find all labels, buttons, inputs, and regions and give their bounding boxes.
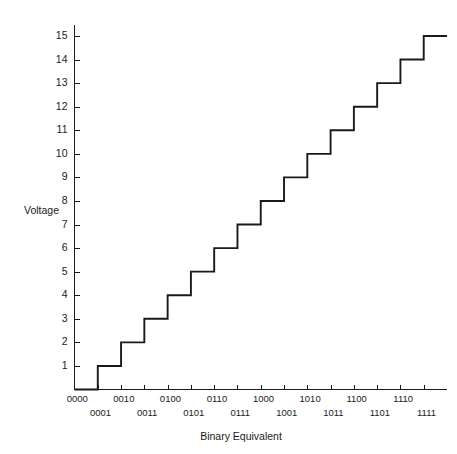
x-tick-label: 1110 — [393, 393, 413, 404]
y-tick-label: 15 — [56, 29, 68, 41]
x-tick-label: 0000 — [67, 393, 88, 404]
y-tick-label: 14 — [56, 53, 68, 65]
y-tick-label: 11 — [57, 123, 68, 135]
y-tick-label: 4 — [62, 288, 68, 300]
y-tick-label: 7 — [62, 218, 68, 230]
x-tick-label: 0110 — [207, 393, 227, 404]
y-tick-label-group: 123456789101112131415 — [56, 29, 68, 371]
y-tick-label: 2 — [62, 335, 68, 347]
y-tick-label: 1 — [62, 359, 68, 371]
x-tick-label: 0111 — [230, 407, 250, 418]
y-tick-label: 9 — [62, 170, 68, 182]
y-axis-title: Voltage — [24, 204, 59, 216]
y-tick-label: 8 — [62, 194, 68, 206]
x-tick-label: 0001 — [90, 407, 111, 418]
x-tick-label: 0010 — [113, 393, 134, 404]
x-tick-label: 1000 — [253, 393, 274, 404]
x-tick-label: 1001 — [276, 407, 297, 418]
y-tick-label: 13 — [56, 76, 68, 88]
y-tick-label: 3 — [62, 312, 68, 324]
chart-container: 123456789101112131415 000000010010001101… — [0, 0, 457, 454]
staircase-chart: 123456789101112131415 000000010010001101… — [0, 0, 457, 454]
x-tick-label: 1101 — [370, 407, 390, 418]
x-tick-label: 1010 — [300, 393, 321, 404]
step-line-group — [75, 36, 448, 390]
y-tick-label: 10 — [56, 147, 68, 159]
y-tick-group — [75, 37, 80, 367]
y-tick-label: 5 — [62, 265, 68, 277]
x-tick-label-group: 0000000100100011010001010110011110001001… — [67, 393, 436, 418]
x-tick-label: 0101 — [183, 407, 204, 418]
x-tick-label: 0011 — [137, 407, 157, 418]
x-tick-group — [99, 385, 425, 390]
x-tick-label: 0100 — [160, 393, 181, 404]
x-tick-label: 1100 — [346, 393, 366, 404]
x-tick-label: 1111 — [417, 407, 436, 418]
dac-staircase-path — [75, 36, 448, 390]
x-axis-title: Binary Equivalent — [200, 430, 282, 442]
y-tick-label: 6 — [62, 241, 68, 253]
y-tick-label: 12 — [56, 100, 68, 112]
x-tick-label: 1011 — [323, 407, 343, 418]
